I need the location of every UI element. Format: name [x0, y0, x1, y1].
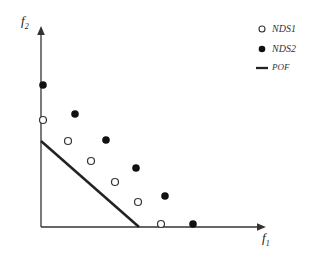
legend-nds2-marker: [259, 46, 266, 53]
x-axis-label: f1: [262, 230, 270, 248]
legend-nds2-label: NDS2: [272, 43, 296, 54]
legend-nds1-label: NDS1: [272, 23, 296, 34]
nds1-points: [40, 117, 165, 228]
legend-nds1-marker: [259, 26, 265, 32]
legend-pof-label: POF: [272, 62, 290, 72]
pof-line: [41, 141, 139, 227]
y-axis-label: f2: [21, 13, 29, 31]
x-label-sub: 1: [266, 239, 270, 248]
chart-canvas: [0, 0, 315, 257]
y-label-sub: 2: [25, 22, 29, 31]
nds2-points: [39, 81, 197, 228]
